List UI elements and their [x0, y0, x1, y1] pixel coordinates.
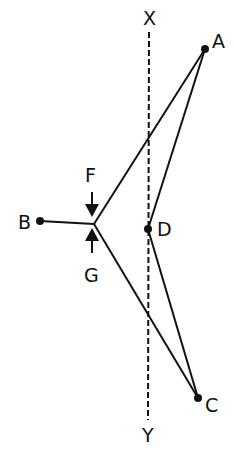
- label-b: B: [18, 211, 31, 233]
- label-a: A: [212, 30, 225, 52]
- line-a-d: [148, 49, 205, 229]
- label-f: F: [85, 164, 96, 186]
- line-b-vertex: [40, 221, 94, 224]
- point-a: [201, 45, 209, 53]
- diagram-canvas: X Y A B C D F G: [0, 0, 234, 455]
- point-d: [144, 225, 152, 233]
- label-y: Y: [141, 424, 154, 446]
- point-c: [194, 394, 202, 402]
- label-g: G: [84, 264, 99, 286]
- line-d-c: [148, 229, 198, 398]
- point-b: [36, 217, 44, 225]
- label-d: D: [157, 218, 172, 240]
- label-c: C: [205, 394, 218, 416]
- arrow-f-icon: [85, 192, 99, 217]
- label-x: X: [143, 7, 156, 29]
- line-vertex-c: [94, 224, 198, 398]
- arrow-g-icon: [85, 228, 99, 253]
